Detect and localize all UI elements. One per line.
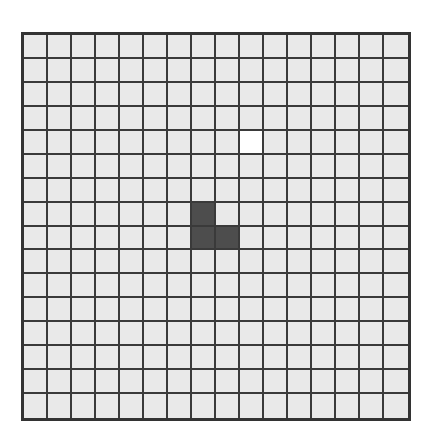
grid-cell-empty[interactable]: [120, 322, 144, 346]
grid-cell-empty[interactable]: [72, 59, 96, 83]
grid-cell-empty[interactable]: [264, 370, 288, 394]
grid-cell-empty[interactable]: [240, 59, 264, 83]
grid-cell-empty[interactable]: [312, 346, 336, 370]
grid-cell-empty[interactable]: [48, 59, 72, 83]
grid-cell-white[interactable]: [240, 131, 264, 155]
grid-cell-empty[interactable]: [48, 346, 72, 370]
grid-cell-empty[interactable]: [384, 346, 408, 370]
grid-cell-empty[interactable]: [288, 35, 312, 59]
grid-cell-empty[interactable]: [360, 179, 384, 203]
grid-cell-empty[interactable]: [336, 59, 360, 83]
grid-cell-empty[interactable]: [216, 107, 240, 131]
grid-cell-empty[interactable]: [48, 179, 72, 203]
grid-cell-dark[interactable]: [192, 227, 216, 251]
grid-cell-empty[interactable]: [264, 131, 288, 155]
grid-cell-empty[interactable]: [336, 131, 360, 155]
grid-cell-empty[interactable]: [48, 322, 72, 346]
grid-cell-empty[interactable]: [264, 83, 288, 107]
grid-cell-empty[interactable]: [288, 155, 312, 179]
grid-cell-empty[interactable]: [96, 346, 120, 370]
grid-cell-empty[interactable]: [144, 107, 168, 131]
grid-cell-empty[interactable]: [168, 203, 192, 227]
grid-cell-empty[interactable]: [216, 346, 240, 370]
grid-cell-empty[interactable]: [72, 203, 96, 227]
grid-cell-empty[interactable]: [360, 250, 384, 274]
grid-cell-empty[interactable]: [360, 59, 384, 83]
grid-cell-empty[interactable]: [216, 35, 240, 59]
grid-cell-empty[interactable]: [144, 346, 168, 370]
grid-cell-empty[interactable]: [264, 346, 288, 370]
grid-cell-empty[interactable]: [96, 298, 120, 322]
grid-cell-empty[interactable]: [216, 394, 240, 418]
grid-cell-empty[interactable]: [96, 227, 120, 251]
grid-cell-empty[interactable]: [96, 155, 120, 179]
grid-cell-empty[interactable]: [240, 35, 264, 59]
grid-cell-empty[interactable]: [96, 83, 120, 107]
grid-cell-empty[interactable]: [96, 370, 120, 394]
grid-cell-empty[interactable]: [312, 274, 336, 298]
grid-cell-empty[interactable]: [384, 370, 408, 394]
grid-cell-dark[interactable]: [192, 203, 216, 227]
grid-cell-empty[interactable]: [240, 203, 264, 227]
grid-cell-empty[interactable]: [120, 298, 144, 322]
grid-cell-empty[interactable]: [240, 107, 264, 131]
grid-cell-empty[interactable]: [96, 274, 120, 298]
grid-cell-empty[interactable]: [72, 107, 96, 131]
grid-cell-empty[interactable]: [72, 298, 96, 322]
grid-cell-empty[interactable]: [336, 298, 360, 322]
grid-cell-empty[interactable]: [384, 107, 408, 131]
grid-cell-empty[interactable]: [24, 250, 48, 274]
grid-cell-empty[interactable]: [120, 346, 144, 370]
grid-cell-empty[interactable]: [312, 131, 336, 155]
grid-cell-empty[interactable]: [216, 83, 240, 107]
grid-cell-empty[interactable]: [360, 370, 384, 394]
grid-cell-empty[interactable]: [192, 131, 216, 155]
grid-cell-empty[interactable]: [288, 370, 312, 394]
grid-cell-empty[interactable]: [72, 370, 96, 394]
grid-cell-empty[interactable]: [240, 394, 264, 418]
grid-cell-empty[interactable]: [336, 179, 360, 203]
grid-cell-empty[interactable]: [120, 59, 144, 83]
grid-cell-empty[interactable]: [336, 83, 360, 107]
grid-cell-empty[interactable]: [144, 179, 168, 203]
grid-cell-empty[interactable]: [48, 370, 72, 394]
grid-cell-empty[interactable]: [72, 322, 96, 346]
grid-cell-empty[interactable]: [312, 155, 336, 179]
grid-cell-empty[interactable]: [48, 227, 72, 251]
grid-cell-empty[interactable]: [384, 131, 408, 155]
grid-cell-empty[interactable]: [144, 35, 168, 59]
grid-cell-empty[interactable]: [384, 322, 408, 346]
grid-cell-empty[interactable]: [96, 131, 120, 155]
grid-cell-empty[interactable]: [360, 35, 384, 59]
grid-cell-empty[interactable]: [264, 107, 288, 131]
grid-cell-empty[interactable]: [192, 322, 216, 346]
grid-cell-empty[interactable]: [360, 274, 384, 298]
grid-cell-empty[interactable]: [336, 346, 360, 370]
grid-cell-empty[interactable]: [24, 59, 48, 83]
grid-cell-empty[interactable]: [48, 298, 72, 322]
grid-cell-empty[interactable]: [336, 370, 360, 394]
grid-cell-empty[interactable]: [48, 131, 72, 155]
grid-cell-empty[interactable]: [48, 274, 72, 298]
grid-cell-empty[interactable]: [312, 179, 336, 203]
grid-cell-empty[interactable]: [384, 179, 408, 203]
grid-cell-empty[interactable]: [96, 322, 120, 346]
grid-cell-empty[interactable]: [192, 274, 216, 298]
grid-cell-empty[interactable]: [192, 394, 216, 418]
grid-cell-dark[interactable]: [216, 227, 240, 251]
grid-cell-empty[interactable]: [288, 274, 312, 298]
grid-cell-empty[interactable]: [48, 83, 72, 107]
grid-cell-empty[interactable]: [264, 394, 288, 418]
grid-cell-empty[interactable]: [192, 107, 216, 131]
grid-cell-empty[interactable]: [96, 59, 120, 83]
grid-cell-empty[interactable]: [144, 250, 168, 274]
grid-cell-empty[interactable]: [72, 250, 96, 274]
grid-cell-empty[interactable]: [192, 298, 216, 322]
grid-cell-empty[interactable]: [48, 394, 72, 418]
grid-cell-empty[interactable]: [24, 131, 48, 155]
grid-cell-empty[interactable]: [120, 179, 144, 203]
grid-cell-empty[interactable]: [24, 298, 48, 322]
grid-cell-empty[interactable]: [168, 322, 192, 346]
grid-cell-empty[interactable]: [144, 370, 168, 394]
grid-cell-empty[interactable]: [312, 394, 336, 418]
